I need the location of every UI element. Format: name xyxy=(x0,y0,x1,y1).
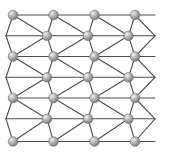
atom-highlight-a-r4-c1 xyxy=(51,95,54,97)
atom-node xyxy=(8,52,18,62)
atom-node xyxy=(90,137,100,147)
atom-highlight-a-r4-c0 xyxy=(10,95,13,97)
atom-node xyxy=(49,93,59,103)
atom-sphere-a-r2-c0 xyxy=(8,52,18,62)
atom-sphere-a-r3-c2 xyxy=(124,73,134,83)
atom-highlight-a-r2-c1 xyxy=(51,54,54,56)
atom-highlight-a-r0-c0 xyxy=(10,12,13,14)
atom-highlight-a-r3-c0 xyxy=(44,75,47,77)
atom-node xyxy=(83,31,93,41)
atom-sphere-a-r6-c3 xyxy=(130,137,140,147)
atom-sphere-a-r1-c2 xyxy=(124,31,134,41)
atom-highlight-a-r6-c1 xyxy=(51,139,54,141)
lattice-diagram-svg xyxy=(0,0,170,160)
atom-node xyxy=(49,137,59,147)
atom-node xyxy=(130,52,140,62)
atom-sphere-a-r0-c3 xyxy=(130,10,140,20)
atom-sphere-a-r3-c0 xyxy=(42,73,52,83)
atom-highlight-a-r1-c1 xyxy=(85,33,88,35)
atom-sphere-a-r6-c1 xyxy=(49,137,59,147)
atom-sphere-a-r3-c1 xyxy=(83,73,93,83)
atom-highlight-a-r6-c3 xyxy=(132,139,135,141)
atom-sphere-a-r4-c3 xyxy=(130,93,140,103)
atom-node xyxy=(130,10,140,20)
atom-highlight-a-r0-c1 xyxy=(51,12,54,14)
lattice-figure xyxy=(0,0,170,160)
atom-sphere-a-r6-c2 xyxy=(90,137,100,147)
atom-node xyxy=(49,52,59,62)
atom-highlight-a-r5-c2 xyxy=(126,116,129,118)
atom-sphere-a-r2-c1 xyxy=(49,52,59,62)
atom-sphere-a-r0-c2 xyxy=(90,10,100,20)
atom-highlight-a-r6-c0 xyxy=(10,139,13,141)
atom-sphere-a-r0-c1 xyxy=(49,10,59,20)
atom-sphere-a-r2-c2 xyxy=(90,52,100,62)
atom-sphere-a-r2-c3 xyxy=(130,52,140,62)
atom-node xyxy=(124,31,134,41)
atom-node xyxy=(83,73,93,83)
atom-node xyxy=(90,93,100,103)
atom-highlight-a-r4-c2 xyxy=(92,95,95,97)
atom-node xyxy=(83,114,93,124)
atom-highlight-a-r3-c1 xyxy=(85,75,88,77)
atom-highlight-a-r5-c1 xyxy=(85,116,88,118)
atom-highlight-a-r4-c3 xyxy=(132,95,135,97)
atom-highlight-a-r1-c2 xyxy=(126,33,129,35)
atom-highlight-a-r6-c2 xyxy=(92,139,95,141)
atom-node xyxy=(8,137,18,147)
atom-highlight-a-r5-c0 xyxy=(44,116,47,118)
atom-sphere-a-r6-c0 xyxy=(8,137,18,147)
atom-sphere-a-r5-c2 xyxy=(124,114,134,124)
atom-node xyxy=(42,114,52,124)
atom-highlight-a-r2-c3 xyxy=(132,54,135,56)
atom-highlight-a-r2-c0 xyxy=(10,54,13,56)
atom-sphere-a-r0-c0 xyxy=(8,10,18,20)
atom-node xyxy=(42,73,52,83)
atom-sphere-a-r5-c1 xyxy=(83,114,93,124)
atom-sphere-a-r4-c1 xyxy=(49,93,59,103)
atom-sphere-a-r1-c1 xyxy=(83,31,93,41)
atom-node xyxy=(42,31,52,41)
atom-highlight-a-r0-c2 xyxy=(92,12,95,14)
atom-node xyxy=(8,93,18,103)
atom-sphere-a-r4-c2 xyxy=(90,93,100,103)
atom-node xyxy=(130,137,140,147)
atom-node xyxy=(90,52,100,62)
atom-sphere-a-r1-c0 xyxy=(42,31,52,41)
atom-sphere-a-r5-c0 xyxy=(42,114,52,124)
atom-node xyxy=(124,114,134,124)
atom-node xyxy=(8,10,18,20)
atom-node xyxy=(49,10,59,20)
atom-sphere-a-r4-c0 xyxy=(8,93,18,103)
atom-node xyxy=(90,10,100,20)
atom-highlight-a-r3-c2 xyxy=(126,75,129,77)
atom-highlight-a-r2-c2 xyxy=(92,54,95,56)
atom-node xyxy=(124,73,134,83)
atom-node xyxy=(130,93,140,103)
atom-highlight-a-r1-c0 xyxy=(44,33,47,35)
atom-highlight-a-r0-c3 xyxy=(132,12,135,14)
